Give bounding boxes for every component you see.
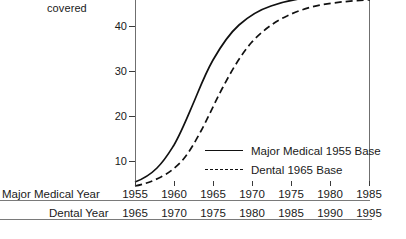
y-tick-label-40: 40 xyxy=(101,20,127,32)
chart-figure: covered 40 30 20 10 Major Medical 1955 B… xyxy=(0,0,406,239)
x-tick-mark-5 xyxy=(330,181,331,186)
x-tick-mark-3 xyxy=(252,181,253,186)
x-tick-label-mm-6: 1985 xyxy=(349,188,389,200)
x-tick-label-dental-0: 1965 xyxy=(115,207,155,219)
x-tick-label-mm-3: 1970 xyxy=(232,188,272,200)
legend-label-dental: Dental 1965 Base xyxy=(251,164,342,176)
axis-rule-upper xyxy=(0,200,370,201)
legend-item-dental: Dental 1965 Base xyxy=(205,160,381,179)
x-tick-label-mm-5: 1980 xyxy=(310,188,350,200)
y-tick-label-30: 30 xyxy=(101,65,127,77)
x-tick-label-mm-2: 1965 xyxy=(193,188,233,200)
x-tick-label-mm-1: 1960 xyxy=(154,188,194,200)
x-tick-label-mm-4: 1975 xyxy=(271,188,311,200)
axis-row-label-dental-year: Dental Year xyxy=(49,207,108,219)
y-tick-label-20: 20 xyxy=(101,110,127,122)
x-tick-mark-2 xyxy=(213,181,214,186)
x-tick-label-dental-4: 1985 xyxy=(271,207,311,219)
axis-rule-lower xyxy=(0,219,372,220)
x-tick-label-dental-5: 1990 xyxy=(310,207,350,219)
x-tick-label-dental-6: 1995 xyxy=(349,207,389,219)
axis-row-label-major-medical-year: Major Medical Year xyxy=(2,188,100,200)
chart-legend: Major Medical 1955 Base Dental 1965 Base xyxy=(205,141,381,179)
x-tick-label-dental-1: 1970 xyxy=(154,207,194,219)
legend-label-major-medical: Major Medical 1955 Base xyxy=(251,145,381,157)
legend-swatch-dashed-icon xyxy=(205,164,243,175)
x-tick-label-dental-3: 1980 xyxy=(232,207,272,219)
x-tick-mark-4 xyxy=(291,181,292,186)
legend-item-major-medical: Major Medical 1955 Base xyxy=(205,141,381,160)
y-tick-label-10: 10 xyxy=(101,155,127,167)
x-tick-mark-6 xyxy=(369,181,370,186)
legend-swatch-solid-icon xyxy=(205,145,243,156)
x-tick-mark-1 xyxy=(174,181,175,186)
x-tick-mark-0 xyxy=(135,181,136,186)
x-tick-label-mm-0: 1955 xyxy=(115,188,155,200)
x-tick-label-dental-2: 1975 xyxy=(193,207,233,219)
y-axis-label-fragment: covered xyxy=(47,2,87,14)
